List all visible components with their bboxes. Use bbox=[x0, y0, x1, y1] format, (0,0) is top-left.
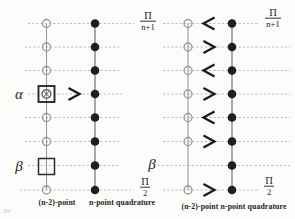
fraction-denominator: n+1 bbox=[141, 22, 154, 32]
filled-dot-node bbox=[228, 43, 237, 52]
figure-caption: (n-2)-point bbox=[38, 198, 75, 207]
filled-dot-node bbox=[91, 66, 100, 75]
filled-dot-node bbox=[91, 161, 100, 170]
filled-dot-node bbox=[228, 113, 237, 122]
filled-dot-node bbox=[91, 137, 100, 146]
filled-dot-node bbox=[91, 19, 100, 28]
figure-caption: (n-2)-point n-point quadrature bbox=[181, 202, 287, 211]
fraction-numerator: Π bbox=[269, 7, 277, 18]
greek-side-label: β bbox=[147, 156, 156, 172]
scan-artifact-text: ne bbox=[3, 206, 11, 215]
figure-caption: n-point quadrature bbox=[89, 198, 155, 207]
filled-dot-node bbox=[228, 161, 237, 170]
filled-dot-node bbox=[91, 43, 100, 52]
fraction-denominator: 2 bbox=[143, 188, 147, 198]
fraction-numerator: Π bbox=[141, 176, 149, 187]
filled-dot-node bbox=[91, 186, 100, 195]
filled-dot-node bbox=[228, 66, 237, 75]
filled-dot-node bbox=[228, 90, 237, 99]
greek-side-label: β bbox=[14, 158, 23, 174]
filled-dot-node bbox=[228, 19, 237, 28]
fraction-numerator: Π bbox=[265, 175, 273, 186]
filled-dot-node bbox=[91, 90, 100, 99]
greek-side-label: α bbox=[15, 86, 24, 102]
filled-dot-node bbox=[228, 186, 237, 195]
fraction-numerator: Π bbox=[144, 10, 152, 21]
quadrature-diagram: αβΠn+1Π2(n-2)-pointn-point quadratureβΠn… bbox=[0, 0, 295, 219]
fraction-denominator: 2 bbox=[267, 187, 271, 197]
fraction-denominator: n+1 bbox=[266, 19, 279, 29]
diagram-canvas: αβΠn+1Π2(n-2)-pointn-point quadratureβΠn… bbox=[0, 0, 295, 219]
filled-dot-node bbox=[91, 113, 100, 122]
filled-dot-node bbox=[228, 137, 237, 146]
